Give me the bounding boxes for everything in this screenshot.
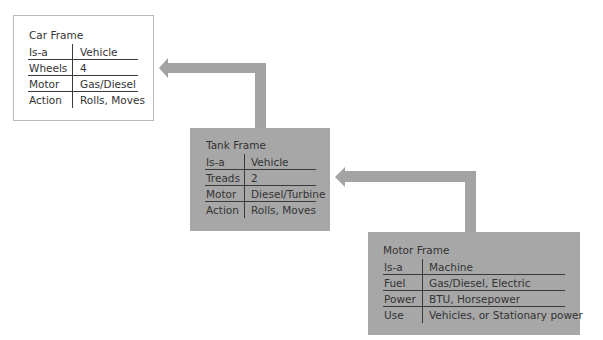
- slot-row: Motor Gas/Diesel: [28, 76, 138, 92]
- slot-value: Rolls, Moves: [244, 202, 316, 218]
- arrow-motor-to-tank: [335, 167, 476, 232]
- slot-key: Motor: [205, 186, 244, 201]
- car-frame-slots: Is-a Vehicle Wheels 4 Motor Gas/Diesel A…: [28, 44, 138, 108]
- tank-frame-title: Tank Frame: [206, 137, 266, 153]
- motor-frame-slots: Is-a Machine Fuel Gas/Diesel, Electric P…: [383, 259, 565, 323]
- slot-row: Is-a Vehicle: [28, 44, 138, 60]
- tank-frame-slots: Is-a Vehicle Treads 2 Motor Diesel/Turbi…: [205, 154, 316, 218]
- slot-row: Fuel Gas/Diesel, Electric: [383, 275, 565, 291]
- slot-key: Use: [383, 307, 422, 323]
- slot-row: Treads 2: [205, 170, 316, 186]
- slot-key: Action: [28, 92, 72, 108]
- slot-value: 2: [244, 170, 316, 185]
- motor-frame-title: Motor Frame: [383, 242, 449, 258]
- slot-row: Power BTU, Horsepower: [383, 291, 565, 307]
- slot-row: Use Vehicles, or Stationary power: [383, 307, 565, 323]
- slot-value: Machine: [422, 259, 565, 274]
- slot-row: Action Rolls, Moves: [28, 92, 138, 108]
- slot-value: Vehicle: [244, 154, 316, 169]
- slot-value: 4: [72, 60, 138, 75]
- slot-row: Is-a Vehicle: [205, 154, 316, 170]
- slot-value: Diesel/Turbine: [244, 186, 325, 201]
- slot-value: Gas/Diesel, Electric: [422, 275, 565, 290]
- slot-key: Is-a: [28, 44, 72, 59]
- slot-key: Action: [205, 202, 244, 218]
- arrow-tank-to-car: [159, 58, 266, 128]
- slot-key: Fuel: [383, 275, 422, 290]
- car-frame-title: Car Frame: [29, 27, 83, 43]
- slot-value: Vehicle: [72, 44, 138, 59]
- slot-row: Is-a Machine: [383, 259, 565, 275]
- slot-row: Motor Diesel/Turbine: [205, 186, 316, 202]
- slot-key: Is-a: [205, 154, 244, 169]
- slot-row: Wheels 4: [28, 60, 138, 76]
- slot-value: BTU, Horsepower: [422, 291, 565, 306]
- slot-value: Rolls, Moves: [72, 92, 145, 108]
- slot-row: Action Rolls, Moves: [205, 202, 316, 218]
- slot-key: Treads: [205, 170, 244, 185]
- slot-key: Power: [383, 291, 422, 306]
- slot-value: Gas/Diesel: [72, 76, 138, 91]
- slot-key: Wheels: [28, 60, 72, 75]
- slot-value: Vehicles, or Stationary power: [422, 307, 583, 323]
- slot-key: Motor: [28, 76, 72, 91]
- slot-key: Is-a: [383, 259, 422, 274]
